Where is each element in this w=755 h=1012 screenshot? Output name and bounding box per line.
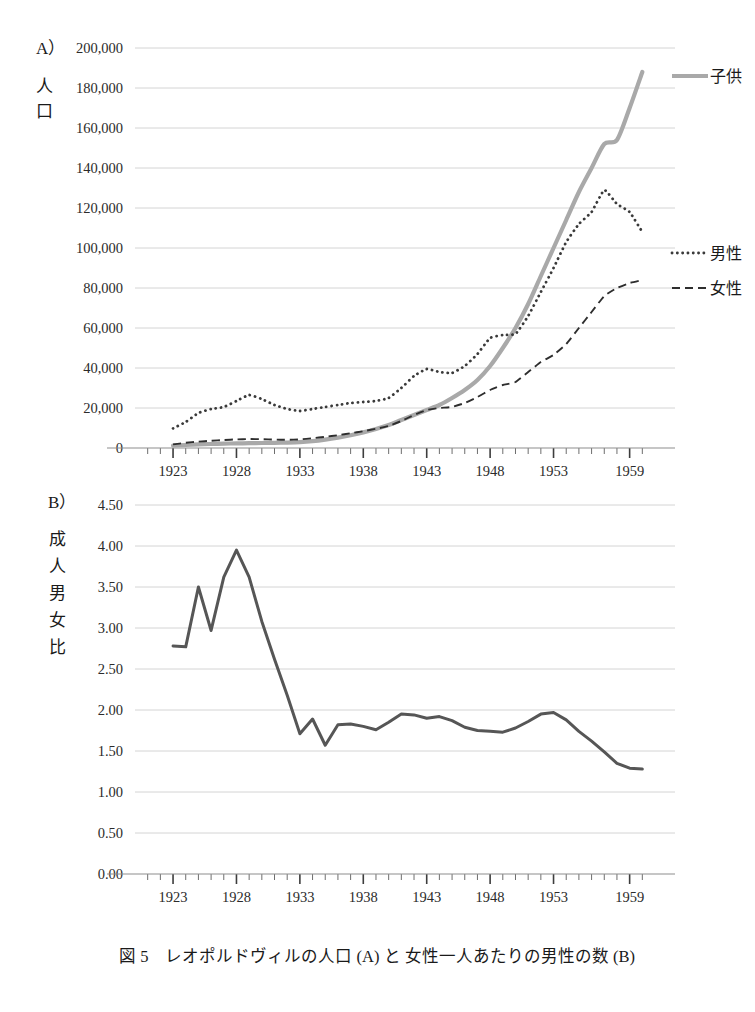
- x-tick-label: 1953: [539, 889, 568, 905]
- panel-b-letter: B）: [48, 493, 76, 512]
- y-tick-label: 2.50: [98, 661, 123, 677]
- y-tick-label: 20,000: [83, 400, 123, 416]
- legend-label: 女性: [710, 279, 742, 297]
- y-tick-label: 120,000: [76, 200, 123, 216]
- figure-container: 020,00040,00060,00080,000100,000120,0001…: [0, 0, 755, 1012]
- x-tick-label: 1953: [539, 463, 568, 479]
- x-tick-label: 1959: [615, 463, 644, 479]
- y-tick-label: 1.00: [98, 784, 123, 800]
- y-tick-label: 80,000: [83, 280, 123, 296]
- y-axis-title-char: 口: [36, 102, 53, 121]
- y-axis-title-char: 人: [49, 557, 66, 576]
- x-tick-label: 1948: [476, 463, 505, 479]
- y-tick-label: 4.50: [98, 497, 123, 513]
- y-tick-label: 40,000: [83, 360, 123, 376]
- y-axis-title-char: 女: [49, 611, 66, 630]
- y-tick-label: 180,000: [76, 80, 123, 96]
- figure-svg: 020,00040,00060,00080,000100,000120,0001…: [0, 0, 755, 1012]
- x-tick-label: 1923: [159, 463, 188, 479]
- figure-caption: 図 5 レオポルドヴィルの人口 (A) と 女性一人あたりの男性の数 (B): [119, 947, 635, 966]
- y-axis-title-char: 人: [36, 77, 53, 96]
- x-tick-label: 1943: [412, 889, 441, 905]
- y-tick-label: 2.00: [98, 702, 123, 718]
- y-axis-title-char: 男: [49, 584, 66, 603]
- x-tick-label: 1928: [222, 463, 251, 479]
- x-tick-label: 1928: [222, 889, 251, 905]
- x-tick-label: 1948: [476, 889, 505, 905]
- y-tick-label: 100,000: [76, 240, 123, 256]
- y-tick-label: 3.50: [98, 579, 123, 595]
- y-tick-label: 200,000: [76, 40, 123, 56]
- x-tick-label: 1933: [285, 463, 314, 479]
- x-tick-label: 1938: [349, 889, 378, 905]
- legend-label: 子供: [710, 68, 742, 85]
- x-tick-label: 1959: [615, 889, 644, 905]
- y-tick-label: 4.00: [98, 538, 123, 554]
- panel-a-letter: A）: [36, 39, 65, 58]
- y-axis-title-char: 成: [49, 530, 66, 549]
- y-tick-label: 140,000: [76, 160, 123, 176]
- y-tick-label: 160,000: [76, 120, 123, 136]
- legend-label: 男性: [710, 245, 742, 262]
- x-tick-label: 1943: [412, 463, 441, 479]
- x-tick-label: 1933: [285, 889, 314, 905]
- y-tick-label: 3.00: [98, 620, 123, 636]
- x-tick-label: 1923: [159, 889, 188, 905]
- y-tick-label: 0.50: [98, 825, 123, 841]
- y-tick-label: 60,000: [83, 320, 123, 336]
- x-tick-label: 1938: [349, 463, 378, 479]
- y-axis-title-char: 比: [49, 638, 66, 657]
- y-tick-label: 1.50: [98, 743, 123, 759]
